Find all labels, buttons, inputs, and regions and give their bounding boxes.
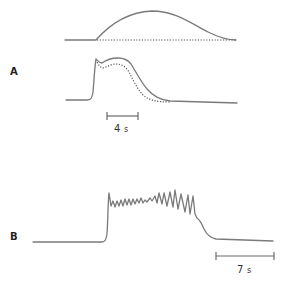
- figure-canvas: A 4 s B 7 s: [0, 0, 283, 282]
- panel-b-label: B: [10, 231, 18, 242]
- panel-a-scale-bar: [107, 112, 138, 120]
- panel-b-scale-unit: s: [247, 266, 251, 275]
- panel-a-scale-value: 4: [114, 123, 120, 134]
- panel-a-response-trace: [66, 58, 237, 103]
- panel-a-scale-unit: s: [124, 125, 128, 134]
- panel-b-oscillating-trace: [33, 190, 273, 242]
- panel-b-scale-value: 7: [237, 264, 243, 275]
- panel-b-scale-bar: [216, 252, 274, 260]
- panel-a-label: A: [10, 66, 18, 77]
- panel-a-stimulus-trace: [65, 11, 236, 40]
